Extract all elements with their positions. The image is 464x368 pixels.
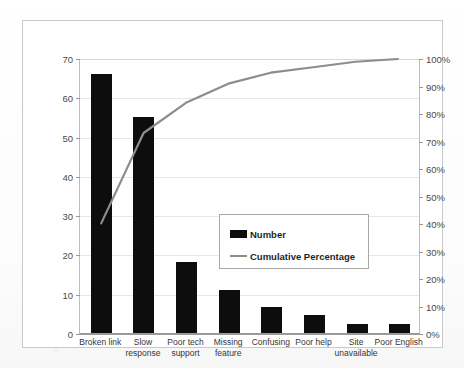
y-axis-left-label-60: 60 bbox=[62, 93, 73, 104]
tick-right-50% bbox=[419, 197, 423, 198]
y-axis-right-label-50pct: 50% bbox=[426, 191, 445, 202]
tick-right-70% bbox=[419, 142, 423, 143]
x-label-poor-english: Poor English bbox=[371, 337, 426, 348]
tick-right-60% bbox=[419, 169, 423, 170]
x-axis-category-labels: Broken linkSlow responsePoor tech suppor… bbox=[79, 337, 420, 368]
tick-right-10% bbox=[419, 307, 423, 308]
y-axis-left-label-30: 30 bbox=[62, 211, 73, 222]
tick-right-100% bbox=[419, 59, 423, 60]
y-axis-right-label-30pct: 30% bbox=[426, 246, 445, 257]
cumulative-percentage-path bbox=[101, 59, 398, 223]
y-axis-right-label-40pct: 40% bbox=[426, 219, 445, 230]
y-axis-right-label-90pct: 90% bbox=[426, 81, 445, 92]
y-axis-left-label-40: 40 bbox=[62, 171, 73, 182]
y-axis-right-label-60pct: 60% bbox=[426, 164, 445, 175]
y-axis-right-label-80pct: 80% bbox=[426, 109, 445, 120]
legend-label-cumulative-percentage: Cumulative Percentage bbox=[250, 251, 355, 262]
tick-right-0% bbox=[419, 334, 423, 335]
legend-line-swatch-icon bbox=[230, 255, 247, 258]
chart-outer-frame: 010203040506070 0%10%20%30%40%50%60%70%8… bbox=[22, 20, 443, 348]
tick-right-40% bbox=[419, 224, 423, 225]
y-axis-left-label-20: 20 bbox=[62, 250, 73, 261]
pareto-chart-figure: 010203040506070 0%10%20%30%40%50%60%70%8… bbox=[0, 0, 464, 368]
legend-entry-cumulative-percentage: Cumulative Percentage bbox=[230, 245, 368, 267]
legend-entry-number: Number bbox=[230, 223, 368, 245]
chart-legend: Number Cumulative Percentage bbox=[219, 214, 369, 269]
gridline-y-0 bbox=[80, 334, 419, 335]
y-axis-right-label-10pct: 10% bbox=[426, 301, 445, 312]
tick-right-80% bbox=[419, 114, 423, 115]
y-axis-right-label-0pct: 0% bbox=[426, 329, 440, 340]
y-axis-right-label-70pct: 70% bbox=[426, 136, 445, 147]
legend-label-number: Number bbox=[250, 229, 286, 240]
y-axis-right-label-20pct: 20% bbox=[426, 274, 445, 285]
tick-right-30% bbox=[419, 252, 423, 253]
plot-area: 010203040506070 0%10%20%30%40%50%60%70%8… bbox=[79, 59, 420, 334]
y-axis-left-label-10: 10 bbox=[62, 289, 73, 300]
y-axis-left-label-50: 50 bbox=[62, 132, 73, 143]
y-axis-right-label-100pct: 100% bbox=[426, 54, 450, 65]
tick-left-0 bbox=[76, 334, 80, 335]
tick-right-90% bbox=[419, 87, 423, 88]
legend-bar-swatch-icon bbox=[230, 230, 247, 238]
tick-right-20% bbox=[419, 279, 423, 280]
cumulative-percentage-line bbox=[80, 59, 419, 333]
y-axis-left-label-70: 70 bbox=[62, 54, 73, 65]
